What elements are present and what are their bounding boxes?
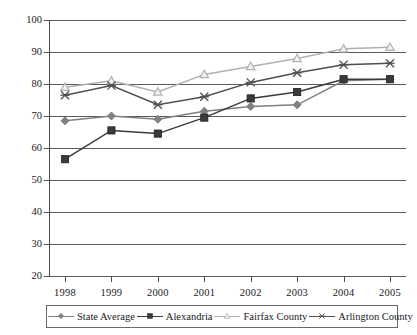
data-point-diamond	[386, 75, 394, 83]
y-tick-90	[44, 52, 50, 53]
y-tick-30	[44, 244, 50, 245]
x-axis-label: 2001	[184, 287, 224, 298]
y-axis-label: 30	[8, 239, 42, 249]
data-point-square	[294, 88, 301, 95]
data-point-x	[339, 61, 348, 69]
gridline-60	[49, 148, 406, 149]
data-point-triangle	[247, 62, 255, 69]
x-tick-2002	[251, 277, 252, 282]
y-axis-label: 100	[8, 15, 42, 25]
legend-label: Arlington County	[338, 311, 412, 323]
legend-item-alexandria[interactable]: Alexandria	[136, 311, 214, 323]
series-line	[65, 79, 390, 121]
legend-item-fairfax-county[interactable]: Fairfax County	[213, 311, 308, 323]
data-point-x	[319, 313, 325, 318]
x-axis-label: 2004	[324, 287, 364, 298]
x-tick-2003	[297, 277, 298, 282]
gridline-70	[49, 116, 406, 117]
x-axis-label: 2000	[138, 287, 178, 298]
x-tick-2004	[344, 277, 345, 282]
data-point-square	[386, 76, 393, 83]
gridline-40	[49, 212, 406, 213]
x-tick-2000	[158, 277, 159, 282]
y-tick-50	[44, 180, 50, 181]
data-point-triangle	[339, 45, 347, 52]
y-tick-20	[44, 276, 50, 277]
data-point-triangle	[225, 313, 231, 318]
legend-item-state-average[interactable]: State Average	[47, 311, 136, 323]
data-point-square	[108, 127, 115, 134]
data-point-x	[60, 91, 69, 99]
data-point-square	[147, 314, 152, 319]
x-tick-1998	[65, 277, 66, 282]
y-tick-40	[44, 212, 50, 213]
data-point-diamond	[247, 102, 255, 110]
x-tick-1999	[111, 277, 112, 282]
line-chart: 1009080706050403020 19981999200020012002…	[0, 0, 417, 335]
legend-label: State Average	[77, 311, 135, 323]
x-axis-label: 1998	[45, 287, 85, 298]
y-axis-label: 60	[8, 143, 42, 153]
data-point-triangle	[386, 43, 394, 50]
y-axis-label: 90	[8, 47, 42, 57]
x-axis-label: 2005	[370, 287, 410, 298]
legend-label: Alexandria	[166, 311, 213, 323]
x-axis-label: 2002	[231, 287, 271, 298]
x-axis-label: 1999	[91, 287, 131, 298]
data-point-x	[246, 78, 255, 86]
data-point-x	[107, 82, 116, 90]
y-tick-100	[44, 20, 50, 21]
legend-marker-diamond-icon	[48, 311, 74, 322]
gridline-20	[49, 276, 406, 277]
data-point-x	[385, 59, 394, 67]
data-point-x	[153, 101, 162, 109]
data-point-triangle	[107, 77, 115, 84]
chart-legend: State AverageAlexandriaFairfax CountyArl…	[46, 305, 398, 328]
gridline-90	[49, 52, 406, 53]
data-point-x	[200, 93, 209, 101]
data-point-triangle	[293, 54, 301, 61]
y-axis-label: 80	[8, 79, 42, 89]
y-axis-label: 40	[8, 207, 42, 217]
data-point-diamond	[293, 101, 301, 109]
gridline-30	[49, 244, 406, 245]
data-point-square	[154, 130, 161, 137]
data-point-triangle	[200, 70, 208, 77]
y-axis-label: 20	[8, 271, 42, 281]
data-point-diamond	[58, 313, 63, 318]
gridline-100	[49, 20, 406, 21]
y-tick-60	[44, 148, 50, 149]
data-point-square	[247, 95, 254, 102]
y-axis-label: 50	[8, 175, 42, 185]
x-axis-label: 2003	[277, 287, 317, 298]
legend-marker-x-icon	[309, 311, 335, 322]
y-tick-80	[44, 84, 50, 85]
x-tick-2001	[204, 277, 205, 282]
data-point-diamond	[200, 107, 208, 115]
x-tick-2005	[390, 277, 391, 282]
series-line	[65, 47, 390, 92]
data-series-layer	[0, 0, 417, 335]
gridline-80	[49, 84, 406, 85]
legend-label: Fairfax County	[243, 311, 307, 323]
y-axis-label: 70	[8, 111, 42, 121]
legend-marker-square-icon	[137, 311, 163, 322]
legend-marker-triangle-icon	[214, 311, 240, 322]
data-point-square	[61, 156, 68, 163]
data-point-x	[293, 69, 302, 77]
legend-item-arlington-county[interactable]: Arlington County	[308, 311, 413, 323]
y-tick-70	[44, 116, 50, 117]
gridline-50	[49, 180, 406, 181]
data-point-triangle	[154, 88, 162, 95]
data-point-square	[340, 76, 347, 83]
data-point-diamond	[61, 117, 69, 125]
